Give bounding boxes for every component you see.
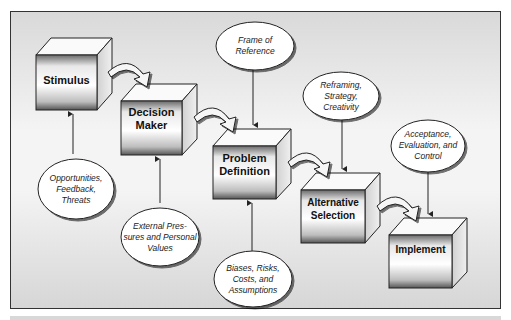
oval-label-opportunities: Opportunities,Feedback,Threats: [38, 173, 114, 206]
oval-label-external-pressures: External Pres-sures and PersonalValues: [121, 221, 199, 254]
box-label-implement: Implement: [389, 243, 452, 256]
oval-label-biases: Biases, Risks,Costs, andAssumptions: [214, 263, 292, 296]
oval-label-frame-of-reference: Frame ofReference: [216, 35, 294, 57]
flow-arrow-4: [377, 197, 419, 221]
box-label-decision-maker: DecisionMaker: [121, 106, 182, 132]
flow-arrow-1: [108, 63, 150, 87]
box-label-problem-definition: ProblemDefinition: [213, 152, 276, 178]
box-label-stimulus: Stimulus: [36, 74, 97, 87]
flow-arrow-2: [194, 108, 236, 132]
oval-label-reframing: Reframing,Strategy,Creativity: [303, 80, 379, 113]
box-label-alternative-selection: AlternativeSelection: [301, 196, 365, 222]
flow-arrow-3: [288, 153, 330, 177]
oval-label-acceptance: Acceptance,Evaluation, andControl: [391, 129, 465, 162]
